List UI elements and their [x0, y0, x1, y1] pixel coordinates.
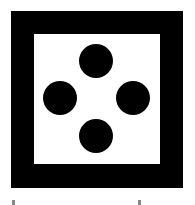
edge-mark-right — [138, 200, 141, 205]
dot-bottom — [79, 119, 113, 153]
dot-left — [43, 81, 77, 115]
dot-right — [116, 81, 150, 115]
dot-top — [79, 44, 113, 78]
edge-mark-left — [12, 200, 15, 205]
dice-four-icon — [11, 11, 183, 188]
